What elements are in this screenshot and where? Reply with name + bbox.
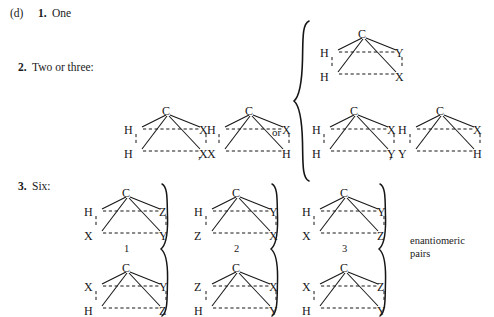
atom-middle-right: Y — [395, 47, 404, 59]
atom-bottom-left: H — [312, 148, 321, 160]
molecule-number: 2 — [234, 243, 239, 254]
atom-middle-left: Z — [194, 281, 201, 293]
enantiomeric-pairs-note: enantiomeric pairs — [410, 234, 490, 260]
atom-apex: C — [436, 105, 444, 117]
bond-solid — [130, 197, 160, 209]
atom-apex: C — [350, 105, 358, 117]
atom-middle-left: X — [84, 281, 93, 293]
large-brace — [292, 20, 314, 182]
atom-bottom-left: H — [302, 305, 311, 317]
atom-apex: C — [340, 187, 348, 199]
atom-bottom-left: X — [207, 148, 216, 160]
atom-middle-left: H — [207, 124, 216, 136]
atom-middle-left: H — [320, 47, 329, 59]
bond-solid — [444, 115, 474, 127]
pair-brace — [270, 183, 288, 317]
molecule-diagram: CHYHX — [318, 28, 410, 80]
item-1-number: 1. — [38, 8, 47, 20]
atom-bottom-right: H — [473, 148, 482, 160]
bond-solid — [358, 115, 388, 127]
molecule-diagram: CHXXH — [205, 105, 297, 157]
atom-bottom-left: X — [302, 230, 311, 242]
atom-middle-right: X — [282, 124, 291, 136]
bond-solid — [366, 38, 396, 50]
molecule-diagram: CHXYH — [396, 105, 488, 157]
atom-apex: C — [122, 262, 130, 274]
atom-bottom-right: X — [395, 71, 404, 83]
atom-apex: C — [232, 187, 240, 199]
item-3-text: Six: — [32, 181, 51, 193]
atom-bottom-left: H — [320, 71, 329, 83]
enantiomeric-line-1: enantiomeric — [410, 234, 490, 247]
atom-middle-left: H — [312, 124, 321, 136]
atom-apex: C — [122, 187, 130, 199]
part-label: (d) — [10, 8, 23, 20]
bond-solid — [170, 115, 200, 127]
item-3-number: 3. — [18, 181, 27, 193]
comma-separator: , — [389, 147, 392, 162]
atom-bottom-right: H — [282, 148, 291, 160]
atom-middle-left: H — [398, 124, 407, 136]
atom-bottom-left: H — [194, 305, 203, 317]
item-2-text: Two or three: — [32, 62, 94, 74]
comma-separator: , — [198, 147, 201, 162]
figure-canvas: (d) 1. One 2. Two or three: 3. Six: CHXH… — [0, 0, 494, 317]
bond-solid — [348, 197, 378, 209]
atom-apex: C — [245, 105, 253, 117]
atom-bottom-left: Z — [194, 230, 201, 242]
item-2-number: 2. — [18, 62, 27, 74]
molecule-number: 3 — [342, 243, 347, 254]
atom-middle-left: H — [84, 206, 93, 218]
or-label: or — [272, 127, 281, 138]
atom-middle-left: H — [194, 206, 203, 218]
pair-brace — [378, 183, 396, 317]
molecule-number: 1 — [124, 243, 129, 254]
atom-apex: C — [162, 105, 170, 117]
atom-middle-right: X — [387, 124, 396, 136]
bond-solid — [130, 272, 160, 284]
atom-middle-left: H — [302, 206, 311, 218]
pair-brace — [160, 183, 178, 317]
atom-middle-left: X — [302, 281, 311, 293]
enantiomeric-line-2: pairs — [410, 247, 490, 260]
atom-bottom-left: H — [124, 148, 133, 160]
atom-middle-left: H — [124, 124, 133, 136]
bond-solid — [348, 272, 378, 284]
atom-bottom-left: Y — [398, 148, 407, 160]
atom-apex: C — [340, 262, 348, 274]
atom-apex: C — [232, 262, 240, 274]
bond-solid — [240, 272, 270, 284]
item-1-text: One — [52, 8, 71, 20]
atom-bottom-left: X — [84, 230, 93, 242]
atom-middle-right: X — [473, 124, 482, 136]
atom-apex: C — [358, 28, 366, 40]
bond-solid — [240, 197, 270, 209]
atom-bottom-left: H — [84, 305, 93, 317]
